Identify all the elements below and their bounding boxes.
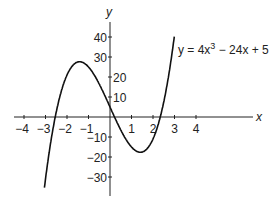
x-tick-label: 1 [128,122,135,136]
y-tick-label: −20 [87,151,108,165]
y-tick-label: −10 [87,131,108,145]
x-tick-label: 3 [171,122,178,136]
y-tick-label: 40 [94,31,108,45]
plot-area: −4−3−2−1123440302010−10−20−30 x y y = 4x… [0,0,277,201]
y-axis-label: y [105,5,113,19]
x-tick-label: −3 [37,122,51,136]
y-tick-label: −30 [87,171,108,185]
chart: −4−3−2−1123440302010−10−20−30 x y y = 4x… [0,0,277,201]
y-tick-label: 30 [94,51,108,65]
y-tick-label: 10 [113,91,127,105]
y-tick-label: 20 [113,71,127,85]
cubic-curve [44,37,174,188]
x-axis-label: x [255,110,263,124]
x-tick-label: −4 [15,122,29,136]
equation-annotation: y = 4x3 − 24x + 5 [178,41,269,57]
x-tick-label: −2 [58,122,72,136]
x-tick-label: 4 [193,122,200,136]
